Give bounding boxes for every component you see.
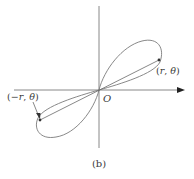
polar-diagram: (r, θ) (−r, θ) O (b) <box>0 0 194 179</box>
curve-lobe-lower-left <box>36 90 99 138</box>
figure-caption: (b) <box>92 158 106 169</box>
point-neg-r-theta <box>39 119 42 122</box>
curve-lobe-upper-right <box>99 40 162 90</box>
label-neg-r-theta: (−r, θ) <box>7 91 39 102</box>
point-r-theta <box>158 59 161 62</box>
x-axis-arrowhead-icon <box>177 87 185 93</box>
origin-label: O <box>103 93 111 104</box>
label-r-theta: (r, θ) <box>156 65 180 76</box>
